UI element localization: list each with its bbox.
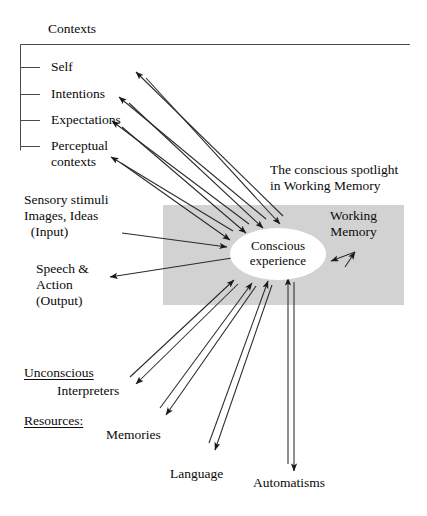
output-label: Speech & Action (Output) [36, 261, 89, 309]
arrow-language-to-center [209, 281, 268, 443]
conscious-experience-node: Conscious experience [230, 228, 326, 280]
arrow-intentions-to-center [129, 103, 263, 228]
context-item-expectations: Expectations [51, 112, 121, 128]
arrow-to-intentions [119, 97, 266, 219]
input-label: Sensory stimuli Images, Ideas (Input) [24, 192, 108, 240]
arrow-center-to-output [110, 258, 232, 277]
resource-item-memories: Memories [106, 427, 161, 443]
center-node-line-1: Conscious [250, 239, 306, 254]
arrow-input-to-center [122, 233, 227, 247]
center-node-line-2: experience [250, 254, 306, 269]
arrow-perceptual-to-center [121, 163, 230, 240]
resource-item-interpreters: Interpreters [57, 383, 119, 399]
page-title: Contexts [48, 21, 96, 37]
context-item-self: Self [51, 59, 73, 75]
context-item-perceptual-contexts: Perceptual contexts [51, 138, 108, 170]
diagram-root: Contexts Self Intentions Expectations Pe… [0, 0, 427, 516]
resource-item-automatisms: Automatisms [253, 475, 325, 491]
context-item-intentions: Intentions [51, 86, 105, 102]
arrow-expectations-to-center [122, 127, 246, 233]
spotlight-caption: The conscious spotlight in Working Memor… [270, 162, 398, 194]
arrow-self-to-center [146, 78, 280, 224]
arrow-to-perceptual [111, 157, 233, 231]
working-memory-label: Working Memory [330, 208, 377, 240]
arrow-memories-to-center [160, 283, 252, 408]
unconscious-heading-line-1: Unconscious [24, 365, 94, 381]
unconscious-heading-line-2: Resources: [24, 413, 94, 429]
resource-item-language: Language [170, 466, 223, 482]
conscious-experience-text: Conscious experience [250, 239, 306, 268]
arrow-center-to-language [215, 285, 272, 450]
